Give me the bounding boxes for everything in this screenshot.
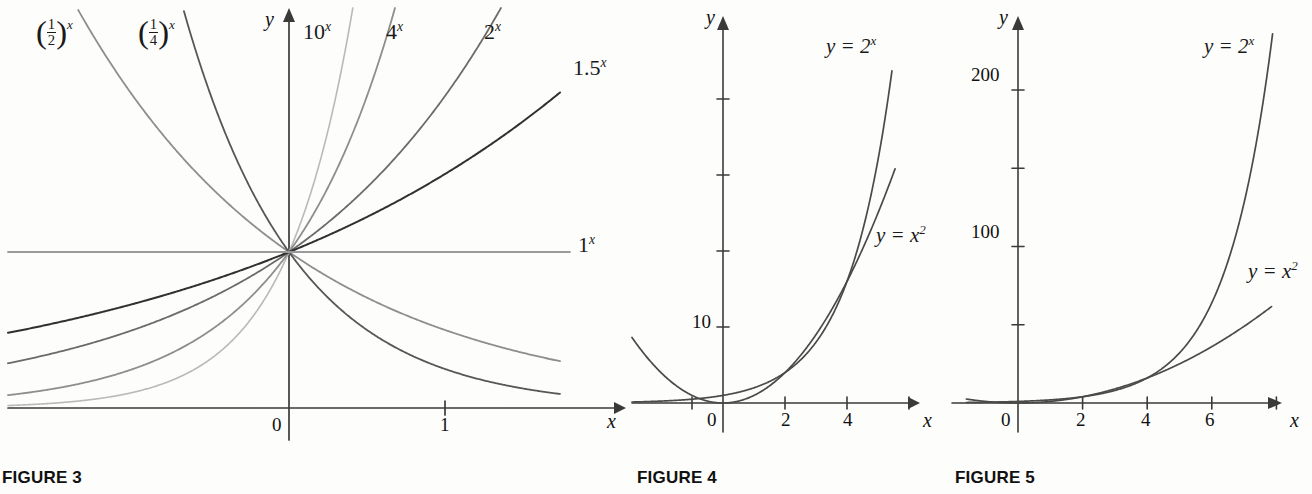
y-axis-arrow: [283, 8, 295, 22]
figure-3-plot: [0, 0, 640, 460]
curve-label-1x: 1x: [578, 232, 595, 258]
curve-label-y-eq-2x: y = 2x: [826, 33, 876, 59]
curve-label-4x: 4x: [386, 19, 403, 45]
figure-5: y = 2x y = x2 y x 0 2 4 6 100 200 FIGURE…: [950, 0, 1312, 494]
x-tick-label-1: 1: [440, 414, 450, 436]
figure-3: (12)x (14)x 10x 4x 2x 1.5x 1x y x 0 1 FI…: [0, 0, 640, 494]
curve-label-quarter: (14)x: [138, 16, 175, 49]
curve-10x: [8, 8, 353, 406]
y-axis-label: y: [265, 8, 274, 31]
figure-4: y = 2x y = x2 y x 0 2 4 10 FIGURE 4: [630, 0, 950, 494]
figure-5-plot: [950, 0, 1312, 460]
x-tick-label-0: 0: [1001, 409, 1011, 431]
x-tick-label-4: 4: [843, 409, 853, 431]
curve-label-y-eq-2x: y = 2x: [1204, 33, 1254, 59]
y-axis-arrow: [717, 16, 729, 30]
curve-y-equals-x-squared: [632, 169, 895, 403]
x-tick-label-4: 4: [1141, 409, 1151, 431]
x-tick-label-0: 0: [272, 414, 282, 436]
curve-12x: [78, 10, 560, 361]
curve-label-half: (12)x: [36, 16, 73, 49]
y-axis-label: y: [999, 6, 1008, 29]
figure-3-caption: FIGURE 3: [2, 468, 82, 488]
y-tick-label-100: 100: [971, 221, 1000, 243]
curve-label-1-5x: 1.5x: [573, 55, 607, 81]
y-tick-label-10: 10: [692, 311, 711, 333]
curve-15x: [8, 92, 560, 332]
x-axis-arrow: [1268, 397, 1282, 409]
curve-label-2x: 2x: [484, 19, 501, 45]
x-axis-label: x: [1290, 409, 1299, 432]
curve-y-equals-2-to-x: [632, 71, 892, 402]
figure-4-caption: FIGURE 4: [637, 468, 717, 488]
curve-label-10x: 10x: [303, 19, 331, 45]
x-tick-label-2: 2: [781, 409, 791, 431]
curve-label-y-eq-x2: y = x2: [876, 222, 926, 248]
x-axis-label: x: [923, 409, 932, 432]
figure-5-caption: FIGURE 5: [955, 468, 1035, 488]
x-tick-label-2: 2: [1076, 409, 1086, 431]
x-tick-label-0: 0: [707, 409, 717, 431]
y-tick-label-200: 200: [971, 64, 1000, 86]
x-tick-label-6: 6: [1205, 409, 1215, 431]
y-axis-label: y: [706, 6, 715, 29]
y-axis-arrow: [1012, 16, 1024, 30]
curve-label-y-eq-x2: y = x2: [1248, 258, 1298, 284]
curve-y-equals-2-to-x: [966, 34, 1272, 403]
x-axis-label: x: [607, 410, 616, 433]
curve-14x: [184, 11, 560, 394]
